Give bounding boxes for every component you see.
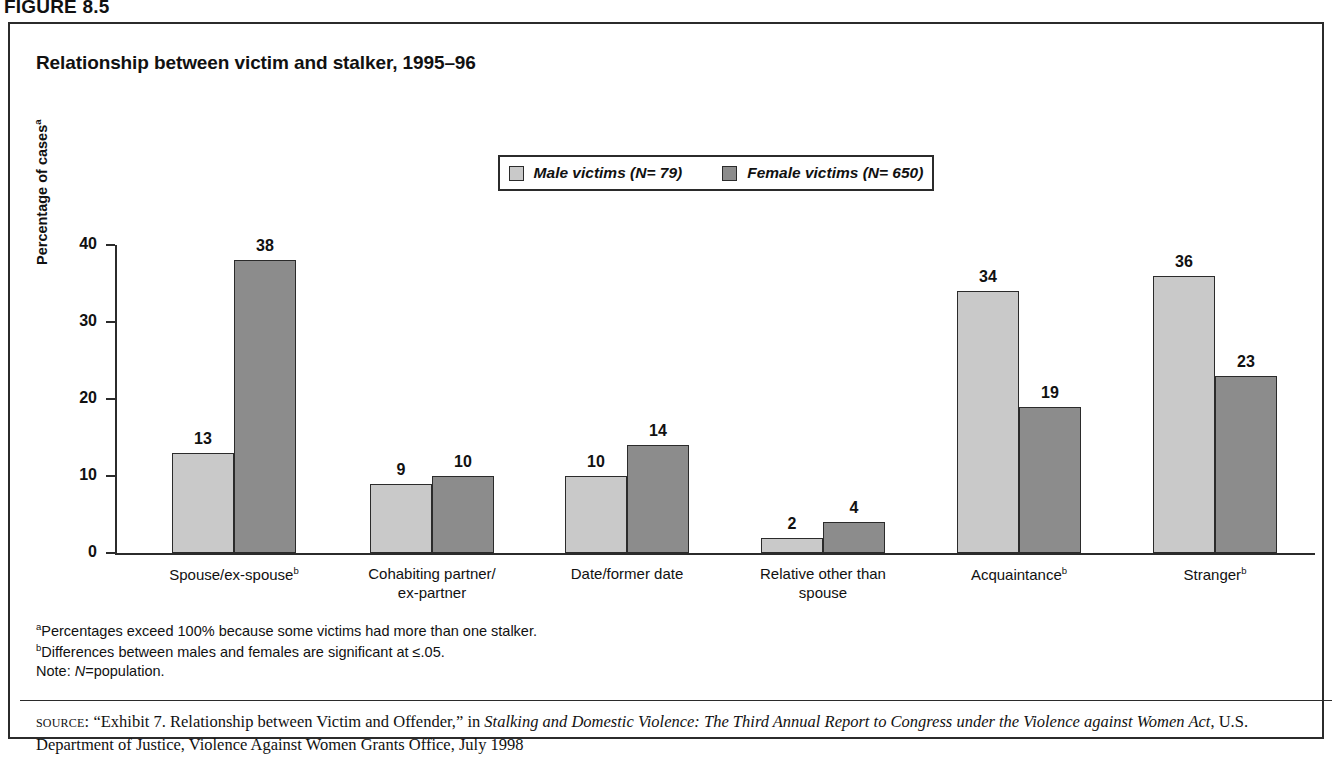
bar-group-4: 3419 (957, 245, 1081, 553)
y-axis-line (115, 245, 117, 553)
footnote-a: aPercentages exceed 100% because some vi… (36, 621, 537, 642)
bar-value-label: 38 (234, 238, 296, 254)
category-label-3: Relative other thanspouse (713, 565, 933, 603)
footnote-note: Note: N=population. (36, 662, 537, 682)
bar-value-label: 4 (823, 500, 885, 516)
bar-female-3[interactable] (823, 522, 885, 553)
category-label-4: Acquaintanceb (909, 565, 1129, 585)
legend-item-female: Female victims (N= 650) (722, 164, 923, 182)
bar-value-label: 13 (172, 431, 234, 447)
x-axis-line (115, 553, 1315, 555)
category-label-line2: spouse (799, 584, 847, 601)
bar-group-bars: 3419 (957, 245, 1081, 553)
footnote-note-prefix: Note: (36, 663, 75, 679)
footnote-b-text: Differences between males and females ar… (41, 643, 444, 659)
bar-female-0[interactable] (234, 260, 296, 553)
figure-label: FIGURE 8.5 (4, 0, 109, 18)
bar-female-4[interactable] (1019, 407, 1081, 553)
bar-value-label: 14 (627, 423, 689, 439)
category-footnote-marker: b (1062, 565, 1067, 576)
chart-title: Relationship between victim and stalker,… (36, 52, 476, 74)
category-label-1: Cohabiting partner/ex-partner (322, 565, 542, 603)
source-note: source: “Exhibit 7. Relationship between… (36, 710, 1304, 757)
bar-slot: 19 (1019, 245, 1081, 553)
category-label-0: Spouse/ex-spouseb (124, 565, 344, 585)
bar-value-label: 9 (370, 462, 432, 478)
bar-male-1[interactable] (370, 484, 432, 553)
bar-slot: 9 (370, 245, 432, 553)
plot-area: 010203040 133891010142434193623 Spouse/e… (115, 245, 1315, 553)
source-label: source: (36, 712, 89, 731)
category-footnote-marker: b (293, 565, 298, 576)
bar-slot: 36 (1153, 245, 1215, 553)
source-italic-title: Stalking and Domestic Violence: The Thir… (484, 712, 1210, 731)
bar-female-5[interactable] (1215, 376, 1277, 553)
category-label-line1: Relative other than (760, 565, 886, 582)
bar-male-3[interactable] (761, 538, 823, 553)
bar-slot: 10 (565, 245, 627, 553)
bar-group-bars: 3623 (1153, 245, 1277, 553)
bar-slot: 23 (1215, 245, 1277, 553)
bar-group-bars: 24 (761, 245, 885, 553)
chart-legend: Male victims (N= 79) Female victims (N= … (498, 155, 934, 191)
bar-male-4[interactable] (957, 291, 1019, 553)
y-tick-label-text: 0 (57, 544, 97, 560)
male-victims-swatch (509, 166, 524, 181)
bar-female-1[interactable] (432, 476, 494, 553)
bar-female-2[interactable] (627, 445, 689, 553)
category-label-line2: ex-partner (398, 584, 466, 601)
bar-group-1: 910 (370, 245, 494, 553)
bar-value-label: 36 (1153, 254, 1215, 270)
y-tick-10 (106, 475, 115, 477)
category-label-2: Date/former date (517, 565, 737, 584)
y-tick-20 (106, 398, 115, 400)
bar-male-5[interactable] (1153, 276, 1215, 553)
category-label-line1: Acquaintance (971, 566, 1062, 583)
bar-group-5: 3623 (1153, 245, 1277, 553)
footnote-note-rest: =population. (85, 663, 164, 679)
bar-value-label: 10 (565, 454, 627, 470)
bar-slot: 34 (957, 245, 1019, 553)
y-axis-title: Percentage of casesa (32, 85, 52, 265)
y-tick-label-text: 20 (57, 390, 97, 406)
bar-group-bars: 1338 (172, 245, 296, 553)
bar-value-label: 19 (1019, 385, 1081, 401)
bar-male-2[interactable] (565, 476, 627, 553)
y-tick-0 (106, 552, 115, 554)
footnotes: aPercentages exceed 100% because some vi… (36, 621, 537, 682)
bar-group-2: 1014 (565, 245, 689, 553)
y-tick-label-text: 40 (57, 236, 97, 252)
category-label-line1: Spouse/ex-spouse (169, 566, 293, 583)
y-tick-label-text: 30 (57, 313, 97, 329)
bar-group-bars: 910 (370, 245, 494, 553)
bar-value-label: 2 (761, 516, 823, 532)
y-axis-title-footnote-marker: a (32, 119, 43, 124)
category-label-line1: Cohabiting partner/ (368, 565, 496, 582)
y-axis-title-text: Percentage of cases (34, 125, 50, 265)
bar-group-3: 24 (761, 245, 885, 553)
bar-group-0: 1338 (172, 245, 296, 553)
bar-value-label: 10 (432, 454, 494, 470)
bar-value-label: 23 (1215, 354, 1277, 370)
y-tick-label-text: 10 (57, 467, 97, 483)
bar-male-0[interactable] (172, 453, 234, 553)
legend-label-male: Male victims (N= 79) (534, 164, 683, 182)
footnote-a-text: Percentages exceed 100% because some vic… (41, 623, 537, 639)
bar-slot: 38 (234, 245, 296, 553)
bar-value-label: 34 (957, 269, 1019, 285)
category-footnote-marker: b (1241, 565, 1246, 576)
bar-slot: 10 (432, 245, 494, 553)
legend-item-male: Male victims (N= 79) (509, 164, 683, 182)
footnote-note-italic: N (75, 663, 85, 679)
bar-group-bars: 1014 (565, 245, 689, 553)
y-tick-30 (106, 321, 115, 323)
category-label-5: Strangerb (1105, 565, 1325, 585)
bar-slot: 13 (172, 245, 234, 553)
bar-slot: 4 (823, 245, 885, 553)
category-label-line1: Stranger (1184, 566, 1242, 583)
source-divider (20, 700, 1332, 701)
source-part1: “Exhibit 7. Relationship between Victim … (89, 712, 484, 731)
category-label-line1: Date/former date (571, 565, 684, 582)
bar-slot: 14 (627, 245, 689, 553)
female-victims-swatch (722, 166, 737, 181)
